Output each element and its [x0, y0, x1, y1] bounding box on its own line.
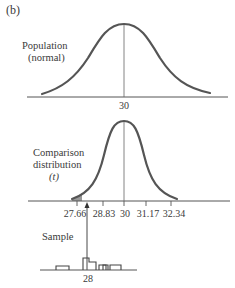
sample-mean-label: 28	[83, 273, 93, 284]
comparison-tick-label: 28.83	[93, 208, 116, 219]
comparison-tick-label: 27.66	[64, 208, 87, 219]
comparison-tick-label: 30	[120, 208, 130, 219]
population-curve	[42, 24, 210, 94]
distribution-diagram	[0, 0, 235, 288]
population-mean-label: 30	[119, 100, 129, 111]
comparison-tick-label: 31.17	[137, 208, 160, 219]
sample-histogram	[56, 258, 121, 270]
comparison-tick-label: 32.34	[163, 208, 186, 219]
comparison-curve	[72, 121, 177, 199]
comparison-ticks	[77, 201, 171, 206]
